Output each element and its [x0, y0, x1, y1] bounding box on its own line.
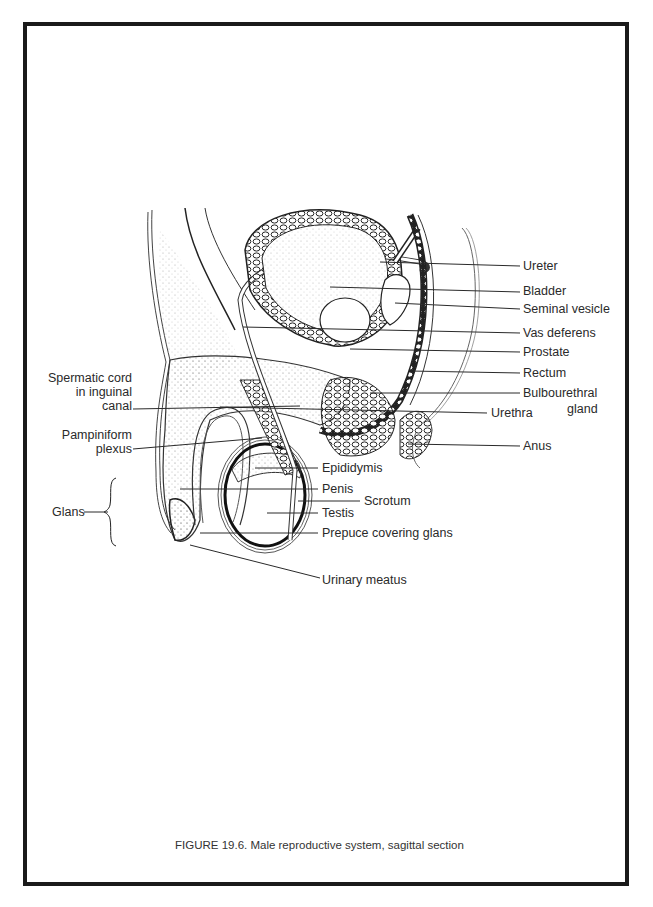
figure-caption: FIGURE 19.6. Male reproductive system, s… — [175, 839, 464, 851]
label-pampiniform-plexus: Pampiniform plexus — [50, 428, 132, 456]
label-rectum: Rectum — [523, 366, 566, 380]
label-bulbourethral-gland: gland — [567, 402, 598, 416]
label-scrotum: Scrotum — [364, 494, 411, 508]
seminal-vesicle-shape — [381, 275, 410, 325]
label-penis: Penis — [322, 482, 353, 496]
label-anus: Anus — [523, 439, 552, 453]
label-bladder: Bladder — [523, 284, 566, 298]
label-vas-deferens: Vas deferens — [523, 326, 596, 340]
bulb-region — [321, 377, 395, 456]
label-ureter: Ureter — [523, 259, 558, 273]
label-prostate: Prostate — [523, 345, 570, 359]
label-urethra: Urethra — [491, 406, 533, 420]
label-bulbourethral: Bulbourethral — [523, 386, 597, 400]
label-spermatic-cord: Spermatic cord in inguinal canal — [44, 371, 132, 413]
anal-region — [400, 411, 432, 459]
label-testis: Testis — [322, 506, 354, 520]
label-urinary-meatus: Urinary meatus — [322, 573, 407, 587]
label-epididymis: Epididymis — [322, 461, 382, 475]
prostate-shape — [320, 298, 370, 342]
label-glans: Glans — [52, 505, 85, 519]
label-prepuce: Prepuce covering glans — [322, 526, 453, 540]
label-seminal-vesicle: Seminal vesicle — [523, 302, 610, 316]
